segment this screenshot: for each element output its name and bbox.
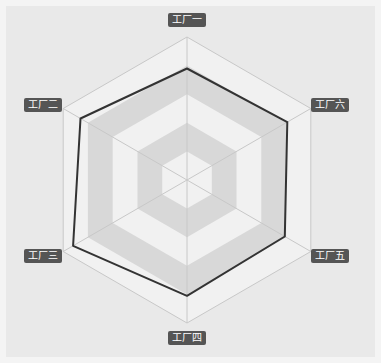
axis-label-factory-1: 工厂一 — [168, 13, 206, 27]
axis-label-factory-6: 工厂六 — [311, 98, 349, 112]
axis-label-factory-2: 工厂二 — [24, 98, 62, 112]
axis-label-factory-3: 工厂三 — [24, 249, 62, 263]
axis-label-factory-4: 工厂四 — [168, 331, 206, 345]
axis-label-factory-5: 工厂五 — [311, 249, 349, 263]
radar-chart — [0, 0, 381, 363]
